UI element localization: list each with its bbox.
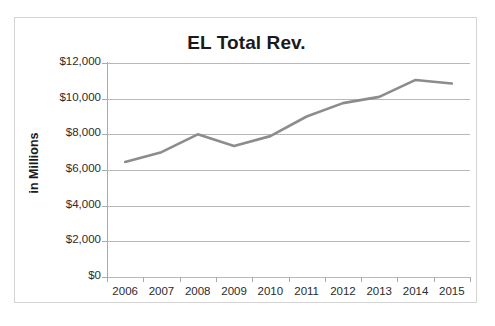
y-axis-tick-label: $12,000 [31,55,101,67]
x-axis-tick [325,277,326,282]
y-axis-tick [102,99,107,100]
chart-figure: EL Total Rev. in Millions $0$2,000$4,000… [0,0,495,326]
x-axis-tick-label: 2006 [107,285,143,297]
x-axis-tick-label: 2014 [397,285,433,297]
y-axis-tick-label: $2,000 [31,233,101,245]
y-axis-tick-label: $6,000 [31,162,101,174]
x-axis-tick-label: 2010 [252,285,288,297]
x-axis-tick [216,277,217,282]
x-axis-tick [107,277,108,282]
y-axis-tick [102,241,107,242]
x-axis-tick [361,277,362,282]
y-axis-tick [102,206,107,207]
y-axis-tick-label: $0 [31,269,101,281]
y-axis-tick [102,63,107,64]
x-axis-tick [143,277,144,282]
x-axis-tick [289,277,290,282]
y-axis-tick [102,134,107,135]
x-axis-tick-labels: 2006200720082009201020112012201320142015 [107,285,470,305]
x-axis-tick [180,277,181,282]
x-axis-tick-label: 2012 [325,285,361,297]
chart-plot-frame: EL Total Rev. in Millions $0$2,000$4,000… [14,17,477,303]
x-axis-tick [434,277,435,282]
y-axis-tick-label: $4,000 [31,198,101,210]
y-axis-tick-label: $8,000 [31,126,101,138]
x-axis-tick-label: 2013 [361,285,397,297]
x-axis-tick-label: 2011 [289,285,325,297]
x-axis-tick-label: 2009 [216,285,252,297]
y-axis-tick-label: $10,000 [31,91,101,103]
x-axis-tick [252,277,253,282]
x-axis-tick [470,277,471,282]
series-line-chart [107,63,470,277]
x-axis-tick-label: 2008 [180,285,216,297]
x-axis-tick [397,277,398,282]
x-axis-tick-label: 2007 [143,285,179,297]
y-axis-tick [102,170,107,171]
plot-area [107,63,470,277]
series-line-el-total-rev [125,80,452,162]
y-axis-tick-labels: $0$2,000$4,000$6,000$8,000$10,000$12,000 [19,18,101,304]
y-axis-tick [102,277,107,278]
x-axis-tick-label: 2015 [434,285,470,297]
